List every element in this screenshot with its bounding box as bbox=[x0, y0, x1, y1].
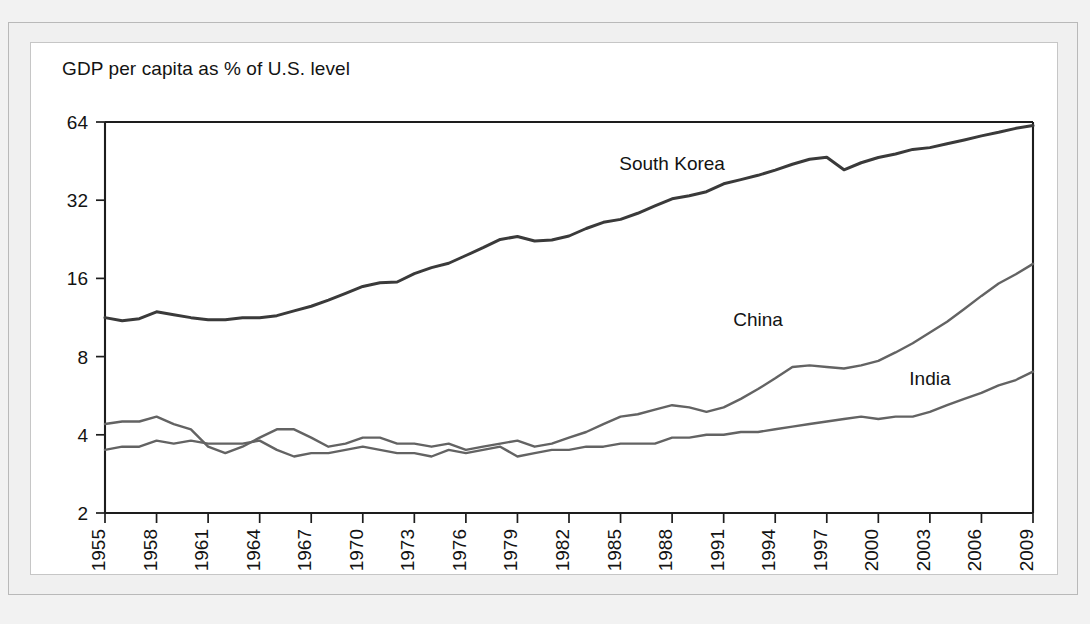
y-tick-label: 32 bbox=[67, 190, 88, 211]
y-tick-label: 2 bbox=[77, 503, 88, 524]
x-tick-label: 1970 bbox=[346, 529, 367, 571]
x-tick-label: 1964 bbox=[243, 529, 264, 572]
x-tick-label: 1976 bbox=[449, 529, 470, 571]
x-tick-label: 1997 bbox=[810, 529, 831, 571]
series-line-india bbox=[105, 372, 1033, 457]
y-tick-label: 4 bbox=[77, 425, 88, 446]
x-tick-label: 1988 bbox=[655, 529, 676, 571]
x-tick-label: 1982 bbox=[552, 529, 573, 571]
x-tick-label: 1973 bbox=[397, 529, 418, 571]
x-tick-label: 1991 bbox=[707, 529, 728, 571]
x-tick-label: 2003 bbox=[913, 529, 934, 571]
series-line-china bbox=[105, 264, 1033, 453]
x-tick-label: 2000 bbox=[861, 529, 882, 571]
x-tick-label: 1994 bbox=[758, 529, 779, 572]
series-label-india: India bbox=[909, 368, 951, 389]
y-tick-label: 64 bbox=[67, 112, 89, 133]
y-tick-label: 8 bbox=[77, 347, 88, 368]
x-tick-label: 1961 bbox=[191, 529, 212, 571]
x-tick-label: 1955 bbox=[88, 529, 109, 571]
line-chart: 2481632641955195819611964196719701973197… bbox=[0, 0, 1090, 624]
x-tick-label: 1985 bbox=[604, 529, 625, 571]
figure-root: GDP per capita as % of U.S. level 248163… bbox=[0, 0, 1090, 624]
series-label-china: China bbox=[733, 309, 783, 330]
series-label-south-korea: South Korea bbox=[619, 153, 725, 174]
x-tick-label: 1958 bbox=[140, 529, 161, 571]
x-tick-label: 1967 bbox=[294, 529, 315, 571]
y-tick-label: 16 bbox=[67, 268, 88, 289]
x-tick-label: 2006 bbox=[964, 529, 985, 571]
series-line-south-korea bbox=[105, 126, 1033, 321]
x-tick-label: 2009 bbox=[1016, 529, 1037, 571]
x-tick-label: 1979 bbox=[500, 529, 521, 571]
